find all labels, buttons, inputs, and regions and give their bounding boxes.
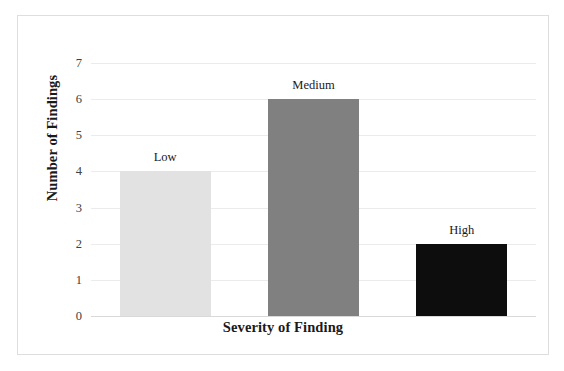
- bar-data-label-high: High: [449, 223, 474, 238]
- bar-medium[interactable]: [268, 99, 359, 316]
- bar-high[interactable]: [416, 244, 507, 316]
- y-axis-tick-label: 7: [76, 56, 82, 71]
- axis-baseline: [91, 316, 536, 317]
- bar-low[interactable]: [120, 171, 211, 316]
- x-axis-title: Severity of Finding: [18, 319, 548, 336]
- bar-data-label-low: Low: [154, 150, 177, 165]
- y-axis-tick-label: 2: [76, 236, 82, 251]
- y-axis-tick-label: 1: [76, 272, 82, 287]
- y-axis-tick-label: 4: [76, 164, 82, 179]
- y-axis-tick-label: 6: [76, 92, 82, 107]
- bar-data-label-medium: Medium: [292, 78, 334, 93]
- gridline: [91, 63, 536, 64]
- chart-frame: Number of Findings 01234567LowMediumHigh…: [17, 15, 549, 355]
- y-axis-tick-label: 5: [76, 128, 82, 143]
- y-axis-tick-label: 3: [76, 200, 82, 215]
- plot-area: 01234567LowMediumHigh: [91, 63, 536, 316]
- y-axis-title: Number of Findings: [40, 38, 64, 238]
